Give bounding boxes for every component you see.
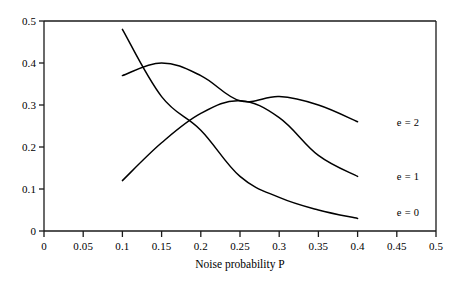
x-tick-label: 0.15	[152, 240, 172, 252]
x-tick-label: 0.3	[272, 240, 286, 252]
y-tick-label: 0.3	[22, 99, 36, 111]
x-tick-label: 0.25	[230, 240, 250, 252]
chart-figure: 00.10.20.30.40.5 00.050.10.150.20.250.30…	[0, 0, 454, 287]
series-line	[122, 101, 357, 181]
series-label: e = 2	[397, 116, 420, 127]
series-line	[122, 29, 357, 218]
y-tick-label: 0.4	[22, 57, 36, 69]
x-tick-label: 0.1	[115, 240, 129, 252]
x-tick-label: 0	[41, 240, 47, 252]
x-tick-label: 0.45	[387, 240, 407, 252]
x-axis-title: Noise probability P	[195, 258, 284, 270]
y-tick-label: 0	[30, 225, 36, 237]
x-tick-label: 0.35	[309, 240, 329, 252]
series-label: e = 1	[397, 171, 420, 182]
x-tick-label: 0.5	[429, 240, 443, 252]
plot-canvas	[0, 0, 454, 287]
data-series-group	[122, 29, 357, 218]
x-tick-label: 0.2	[194, 240, 208, 252]
x-tick-label: 0.05	[73, 240, 93, 252]
y-tick-label: 0.1	[22, 183, 36, 195]
y-tick-label: 0.5	[22, 15, 36, 27]
axes	[39, 21, 436, 237]
y-tick-label: 0.2	[22, 141, 36, 153]
x-tick-label: 0.4	[351, 240, 365, 252]
series-label: e = 0	[397, 207, 420, 218]
